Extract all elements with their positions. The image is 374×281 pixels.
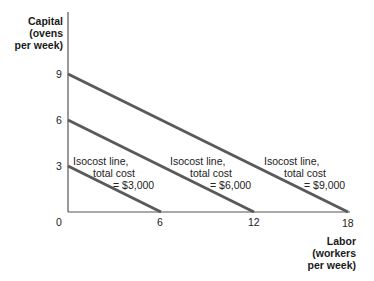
x-tick-6: 6 <box>157 216 163 228</box>
annotation-6000: Isocost line, total cost = $6,000 <box>170 155 251 191</box>
annotation-line: = $6,000 <box>170 179 251 191</box>
annotation-line: = $9,000 <box>264 179 345 191</box>
x-title-line: per week) <box>300 259 356 271</box>
annotation-line: = $3,000 <box>73 179 154 191</box>
y-title-line: per week) <box>2 39 63 51</box>
annotation-line: Isocost line, <box>264 155 345 167</box>
y-axis-title: Capital (ovens per week) <box>2 15 63 51</box>
isocost-line-9000 <box>68 74 348 212</box>
y-title-line: (ovens <box>2 27 63 39</box>
x-axis-title: Labor (workers per week) <box>300 235 356 271</box>
annotation-line: total cost <box>73 167 154 179</box>
y-tick-3: 3 <box>56 160 62 172</box>
origin-tick: 0 <box>56 216 62 228</box>
y-title-line: Capital <box>2 15 63 27</box>
annotation-line: total cost <box>170 167 251 179</box>
annotation-3000: Isocost line, total cost = $3,000 <box>73 155 154 191</box>
x-title-line: Labor <box>300 235 356 247</box>
y-tick-9: 9 <box>56 68 62 80</box>
annotation-line: Isocost line, <box>170 155 251 167</box>
x-tick-12: 12 <box>248 216 260 228</box>
x-title-line: (workers <box>300 247 356 259</box>
annotation-line: Isocost line, <box>73 155 154 167</box>
annotation-9000: Isocost line, total cost = $9,000 <box>264 155 345 191</box>
x-tick-18: 18 <box>342 217 354 229</box>
annotation-line: total cost <box>264 167 345 179</box>
y-tick-6: 6 <box>56 114 62 126</box>
